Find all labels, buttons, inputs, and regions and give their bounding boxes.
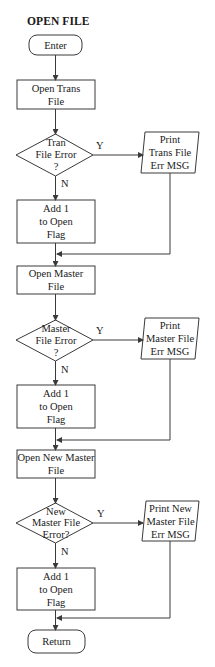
new-master-file-error-label: New Master File Error?	[20, 503, 92, 543]
open-trans-file-label: Open Trans File	[17, 80, 95, 109]
return-label: Return	[28, 630, 85, 653]
enter-label: Enter	[29, 35, 82, 55]
print-trans-err-label: Print Trans File Err MSG	[141, 132, 199, 173]
no-label-2: N	[61, 364, 69, 375]
yes-label-2: Y	[96, 325, 104, 336]
yes-label-1: Y	[96, 140, 104, 151]
no-label-3: N	[61, 546, 69, 557]
master-file-error-label: Master File Error ?	[20, 320, 92, 361]
open-new-master-file-label: Open New Master File	[15, 450, 97, 478]
add-open-flag-label-2: Add 1 to Open Flag	[17, 385, 95, 428]
no-label-1: N	[61, 178, 69, 189]
yes-label-3: Y	[97, 508, 105, 519]
open-master-file-label: Open Master File	[17, 266, 95, 294]
add-open-flag-label-1: Add 1 to Open Flag	[17, 200, 95, 243]
print-master-err-label: Print Master File Err MSG	[141, 318, 199, 359]
trans-file-error-label: Tran File Error ?	[20, 134, 92, 176]
print-new-master-err-label: Print New Master File Err MSG	[142, 501, 199, 541]
add-open-flag-label-3: Add 1 to Open Flag	[17, 568, 95, 610]
